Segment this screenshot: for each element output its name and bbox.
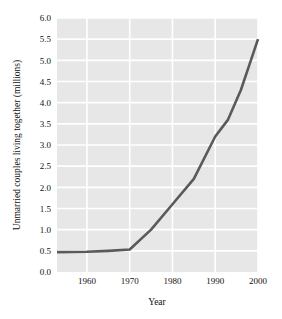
x-tick-label: 1980 [163,276,182,286]
x-tick-label: 1960 [78,276,97,286]
y-tick-label: 4.0 [40,98,52,108]
x-tick-label: 1990 [206,276,225,286]
y-tick-label: 5.0 [40,56,52,66]
y-tick-label: 0.0 [40,267,52,277]
y-tick-label: 1.0 [40,225,52,235]
y-tick-label: 2.0 [40,183,52,193]
y-tick-label: 0.5 [40,246,52,256]
line-chart: 0.00.51.01.52.02.53.03.54.04.55.05.56.0 … [0,0,282,319]
x-tick-label: 2000 [249,276,268,286]
x-axis-title: Year [148,297,166,307]
y-tick-label: 2.5 [40,161,52,171]
chart-figure: 0.00.51.01.52.02.53.03.54.04.55.05.56.0 … [0,0,282,319]
y-tick-label: 3.0 [40,140,52,150]
y-tick-label: 3.5 [40,119,52,129]
y-tick-label: 6.0 [40,13,52,23]
y-axis-title: Unmarried couples living together (milli… [12,60,23,230]
y-tick-label: 1.5 [40,204,52,214]
x-tick-label: 1970 [121,276,140,286]
y-tick-label: 4.5 [40,77,52,87]
y-tick-label: 5.5 [40,34,52,44]
